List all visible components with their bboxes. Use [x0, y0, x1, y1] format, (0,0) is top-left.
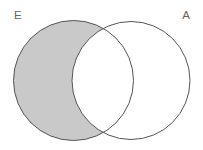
set-label-e: E — [14, 9, 22, 21]
venn-diagram-canvas: E A — [0, 0, 203, 150]
venn-diagram-figure: E A — [0, 0, 203, 150]
region-e-minus-a-shaded — [0, 0, 203, 150]
set-label-a: A — [182, 9, 190, 21]
